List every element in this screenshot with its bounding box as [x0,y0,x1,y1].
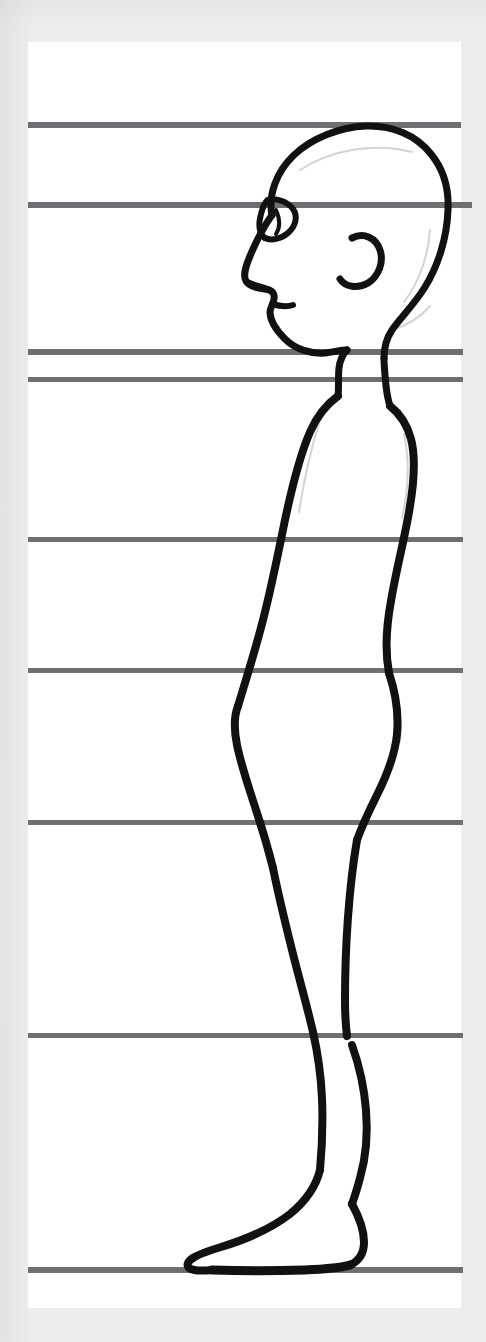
guide-line-shoulder [28,377,463,382]
figure-drawing-canvas [0,0,486,1342]
profile-figure [188,126,449,1271]
calf-back-contour [352,1045,367,1204]
guide-line-knee [28,1033,463,1038]
eye-iris-mark [276,210,279,234]
ankle-instep-contour [193,1170,320,1258]
scanned-page [0,0,486,1342]
guide-line-brow-eye [28,202,472,208]
mouth-line [272,304,293,306]
ear-outline [340,236,381,287]
leg-front-contour [273,868,322,1170]
head-outline [271,126,448,358]
abdomen-hip-contour [235,706,273,868]
torso-front-contour [238,396,338,706]
foot-sole-contour [212,1265,350,1271]
guide-line-chin [28,349,463,355]
buttock-contour [357,673,398,840]
neck-back-contour [384,358,390,406]
guide-line-hip-crotch [28,820,463,825]
neck-front-contour [338,350,347,396]
leg-back-contour [345,840,357,1036]
guide-lines-group [28,122,472,1273]
heel-contour [350,1204,364,1265]
guide-line-chest [28,537,463,542]
